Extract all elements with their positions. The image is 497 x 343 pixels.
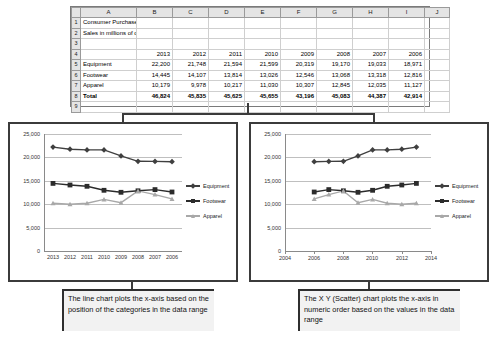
row-header-3[interactable]: 3 — [72, 39, 81, 50]
column-header-c[interactable]: C — [173, 8, 209, 18]
row-header-2[interactable]: 2 — [72, 28, 81, 39]
cell-h5[interactable]: 19,033 — [353, 60, 389, 71]
table-row[interactable]: 9 — [72, 102, 450, 113]
legend-item-equipment[interactable]: Equipment — [186, 182, 229, 190]
cell-b1[interactable] — [137, 18, 173, 29]
cell-i7[interactable]: 11,127 — [389, 81, 425, 92]
legend-item-apparel[interactable]: Apparel — [435, 212, 478, 220]
cell-c5[interactable]: 21,748 — [173, 60, 209, 71]
cell-c3[interactable] — [173, 39, 209, 50]
legend-item-footwear[interactable]: Footwear — [186, 197, 229, 205]
cell-d4-year[interactable]: 2011 — [209, 49, 245, 60]
cell-e5[interactable]: 21,599 — [245, 60, 281, 71]
table-row[interactable]: 6 Footwear 14,445 14,107 13,814 13,026 1… — [72, 70, 450, 81]
row-header-7[interactable]: 7 — [72, 81, 81, 92]
cell-h3[interactable] — [353, 39, 389, 50]
cell-a5-label[interactable]: Equipment — [81, 60, 137, 71]
cell-g5[interactable]: 19,170 — [317, 60, 353, 71]
cell-i8[interactable]: 42,914 — [389, 91, 425, 102]
legend-item-equipment[interactable]: Equipment — [435, 182, 478, 190]
cell-f5[interactable]: 20,319 — [281, 60, 317, 71]
cell-j6[interactable] — [425, 70, 450, 81]
cell-e8[interactable]: 45,655 — [245, 91, 281, 102]
row-header-5[interactable]: 5 — [72, 60, 81, 71]
column-header-j[interactable]: J — [425, 8, 450, 18]
cell-i5[interactable]: 18,971 — [389, 60, 425, 71]
cell-d5[interactable]: 21,594 — [209, 60, 245, 71]
table-row[interactable]: 1 Consumer Purchases by Category — [72, 18, 450, 29]
cell-g7[interactable]: 12,845 — [317, 81, 353, 92]
cell-h1[interactable] — [353, 18, 389, 29]
cell-e1[interactable] — [245, 18, 281, 29]
cell-i3[interactable] — [389, 39, 425, 50]
cell-c9[interactable] — [173, 102, 209, 113]
cell-d7[interactable]: 10,217 — [209, 81, 245, 92]
column-header-g[interactable]: G — [317, 8, 353, 18]
cell-h7[interactable]: 12,035 — [353, 81, 389, 92]
cell-j9[interactable] — [425, 102, 450, 113]
cell-c4-year[interactable]: 2012 — [173, 49, 209, 60]
column-header-h[interactable]: H — [353, 8, 389, 18]
cell-c2[interactable] — [173, 28, 209, 39]
cell-j8[interactable] — [425, 91, 450, 102]
cell-d9[interactable] — [209, 102, 245, 113]
cell-f9[interactable] — [281, 102, 317, 113]
cell-c1[interactable] — [173, 18, 209, 29]
cell-e3[interactable] — [245, 39, 281, 50]
legend-item-apparel[interactable]: Apparel — [186, 212, 229, 220]
cell-f8[interactable]: 43,196 — [281, 91, 317, 102]
cell-i2[interactable] — [389, 28, 425, 39]
cell-j3[interactable] — [425, 39, 450, 50]
cell-i9[interactable] — [389, 102, 425, 113]
cell-d8[interactable]: 45,625 — [209, 91, 245, 102]
cell-b2[interactable] — [137, 28, 173, 39]
cell-a1-title[interactable]: Consumer Purchases by Category — [81, 18, 137, 29]
spreadsheet-panel[interactable]: A B C D E F G H I J 1 Consumer Purchases… — [70, 6, 430, 107]
cell-e4-year[interactable]: 2010 — [245, 49, 281, 60]
table-row-years[interactable]: 4 2013 2012 2011 2010 2009 2008 2007 200… — [72, 49, 450, 60]
cell-g9[interactable] — [317, 102, 353, 113]
table-row[interactable]: 5 Equipment 22,200 21,748 21,594 21,599 … — [72, 60, 450, 71]
cell-g1[interactable] — [317, 18, 353, 29]
column-header-i[interactable]: I — [389, 8, 425, 18]
row-header-6[interactable]: 6 — [72, 70, 81, 81]
cell-a8-label[interactable]: Total — [81, 91, 137, 102]
cell-h8[interactable]: 44,387 — [353, 91, 389, 102]
cell-c7[interactable]: 9,978 — [173, 81, 209, 92]
cell-b7[interactable]: 10,179 — [137, 81, 173, 92]
cell-j1[interactable] — [425, 18, 450, 29]
select-all-corner[interactable] — [72, 8, 81, 18]
cell-f6[interactable]: 12,546 — [281, 70, 317, 81]
cell-b3[interactable] — [137, 39, 173, 50]
cell-a3[interactable] — [81, 39, 137, 50]
cell-h2[interactable] — [353, 28, 389, 39]
cell-e2[interactable] — [245, 28, 281, 39]
cell-f3[interactable] — [281, 39, 317, 50]
cell-a7-label[interactable]: Apparel — [81, 81, 137, 92]
cell-b5[interactable]: 22,200 — [137, 60, 173, 71]
cell-j5[interactable] — [425, 60, 450, 71]
column-header-e[interactable]: E — [245, 8, 281, 18]
cell-j2[interactable] — [425, 28, 450, 39]
line-chart-panel[interactable]: 25,000 20,000 15,000 10,000 5,000 0 — [8, 122, 238, 282]
cell-b6[interactable]: 14,445 — [137, 70, 173, 81]
table-row[interactable]: 7 Apparel 10,179 9,978 10,217 11,030 10,… — [72, 81, 450, 92]
table-row[interactable]: 2 Sales in millions of dollars — [72, 28, 450, 39]
column-header-d[interactable]: D — [209, 8, 245, 18]
table-row[interactable]: 3 — [72, 39, 450, 50]
cell-f7[interactable]: 10,307 — [281, 81, 317, 92]
cell-i1[interactable] — [389, 18, 425, 29]
cell-f2[interactable] — [281, 28, 317, 39]
cell-h9[interactable] — [353, 102, 389, 113]
xy-scatter-chart-panel[interactable]: 25,000 20,000 15,000 10,000 5,000 0 — [249, 122, 489, 282]
cell-g8[interactable]: 45,083 — [317, 91, 353, 102]
cell-d2[interactable] — [209, 28, 245, 39]
cell-i6[interactable]: 12,816 — [389, 70, 425, 81]
column-header-b[interactable]: B — [137, 8, 173, 18]
cell-h6[interactable]: 13,318 — [353, 70, 389, 81]
cell-g2[interactable] — [317, 28, 353, 39]
cell-h4-year[interactable]: 2007 — [353, 49, 389, 60]
cell-e9[interactable] — [245, 102, 281, 113]
column-header-a[interactable]: A — [81, 8, 137, 18]
legend-item-footwear[interactable]: Footwear — [435, 197, 478, 205]
